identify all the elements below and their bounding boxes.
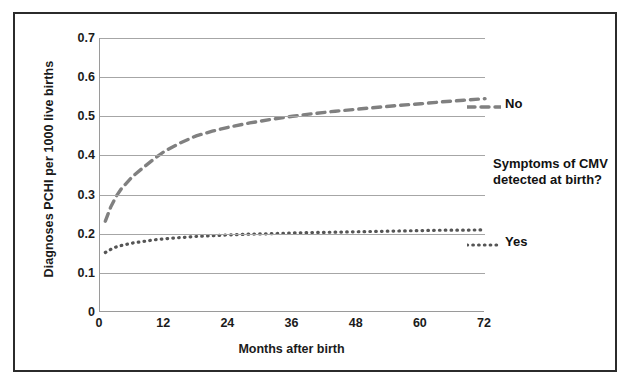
series-label-no: No (505, 96, 522, 111)
legend-swatch-yes (467, 241, 501, 249)
x-tick-label: 24 (207, 317, 247, 330)
legend-swatch-no (467, 103, 501, 111)
gridline-y (100, 273, 485, 274)
x-tick-label: 12 (143, 317, 183, 330)
x-tick-label: 0 (79, 317, 119, 330)
legend-question-text: Symptoms of CMV detected at birth? (493, 156, 623, 189)
y-tick-label: 0.5 (61, 110, 95, 123)
y-tick-label: 0.6 (61, 71, 95, 84)
x-tick-label: 48 (336, 317, 376, 330)
x-tick-label: 72 (464, 317, 504, 330)
y-tick-label: 0.1 (61, 267, 95, 280)
figure-frame: Diagnoses PCHI per 1000 live births 00.1… (13, 12, 617, 372)
y-tick-label: 0.7 (61, 32, 95, 45)
plot-area (99, 38, 484, 312)
y-tick-label: 0.2 (61, 228, 95, 241)
gridline-y (100, 234, 485, 235)
gridline-y (100, 38, 485, 39)
gridline-y (100, 155, 485, 156)
x-axis-tick-labels: 0122436486072 (99, 317, 484, 335)
x-axis-title: Months after birth (99, 342, 484, 356)
gridline-y (100, 195, 485, 196)
plot-series-svg (100, 38, 485, 312)
chart-stage: Diagnoses PCHI per 1000 live births 00.1… (15, 14, 619, 374)
series-label-yes: Yes (505, 234, 527, 249)
gridline-y (100, 116, 485, 117)
x-tick-label: 36 (272, 317, 312, 330)
y-tick-label: 0.3 (61, 189, 95, 202)
gridline-y (100, 77, 485, 78)
x-tick-label: 60 (400, 317, 440, 330)
y-tick-label: 0.4 (61, 149, 95, 162)
